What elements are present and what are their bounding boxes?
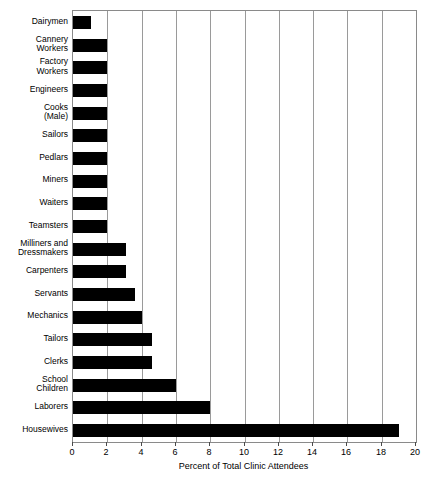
x-tick-label-18: 18	[369, 447, 393, 458]
bar	[73, 220, 107, 233]
bar	[73, 197, 107, 210]
x-tick-label-20: 20	[403, 447, 427, 458]
bar	[73, 61, 107, 74]
x-tick-mark-10	[244, 442, 245, 446]
bar	[73, 243, 126, 256]
plot-area	[72, 10, 417, 443]
bar-series	[73, 11, 416, 442]
x-tick-mark-0	[72, 442, 73, 446]
category-label: Sailors	[0, 130, 68, 140]
x-tick-mark-20	[415, 442, 416, 446]
category-label: Miners	[0, 175, 68, 185]
category-label: Teamsters	[0, 221, 68, 231]
bar	[73, 333, 152, 346]
bar	[73, 311, 142, 324]
x-tick-mark-12	[278, 442, 279, 446]
x-tick-mark-8	[209, 442, 210, 446]
category-label: Laborers	[0, 402, 68, 412]
bar	[73, 424, 399, 437]
x-tick-mark-6	[175, 442, 176, 446]
category-label: Cannery Workers	[0, 35, 68, 54]
x-tick-label-0: 0	[60, 447, 84, 458]
category-label: Cooks (Male)	[0, 103, 68, 122]
x-tick-label-4: 4	[129, 447, 153, 458]
x-tick-label-6: 6	[163, 447, 187, 458]
category-label: Dairymen	[0, 17, 68, 27]
category-label: Factory Workers	[0, 57, 68, 76]
bar	[73, 129, 107, 142]
x-tick-mark-4	[141, 442, 142, 446]
x-tick-mark-2	[106, 442, 107, 446]
x-tick-label-10: 10	[232, 447, 256, 458]
category-label: Engineers	[0, 85, 68, 95]
x-tick-mark-18	[381, 442, 382, 446]
bar	[73, 107, 107, 120]
x-tick-mark-16	[346, 442, 347, 446]
bar	[73, 379, 176, 392]
bar	[73, 84, 107, 97]
x-axis-title: Percent of Total Clinic Attendees	[72, 461, 415, 471]
category-label: Pedlars	[0, 153, 68, 163]
x-tick-mark-14	[312, 442, 313, 446]
horizontal-bar-chart: DairymenCannery WorkersFactory WorkersEn…	[0, 0, 430, 479]
x-tick-label-16: 16	[334, 447, 358, 458]
x-tick-label-8: 8	[197, 447, 221, 458]
category-label: Waiters	[0, 198, 68, 208]
bar	[73, 288, 135, 301]
bar	[73, 356, 152, 369]
category-label: Servants	[0, 289, 68, 299]
category-label: School Children	[0, 375, 68, 394]
category-axis: DairymenCannery WorkersFactory WorkersEn…	[0, 10, 70, 441]
x-tick-label-2: 2	[94, 447, 118, 458]
bar	[73, 401, 210, 414]
bar	[73, 152, 107, 165]
x-tick-label-14: 14	[300, 447, 324, 458]
x-tick-label-12: 12	[266, 447, 290, 458]
category-label: Carpenters	[0, 266, 68, 276]
bar	[73, 16, 91, 29]
category-label: Tailors	[0, 334, 68, 344]
bar	[73, 39, 107, 52]
x-axis: Percent of Total Clinic Attendees 024681…	[72, 442, 415, 478]
category-label: Housewives	[0, 425, 68, 435]
bar	[73, 175, 107, 188]
bar	[73, 265, 126, 278]
category-label: Clerks	[0, 357, 68, 367]
category-label: Milliners and Dressmakers	[0, 239, 68, 258]
category-label: Mechanics	[0, 311, 68, 321]
